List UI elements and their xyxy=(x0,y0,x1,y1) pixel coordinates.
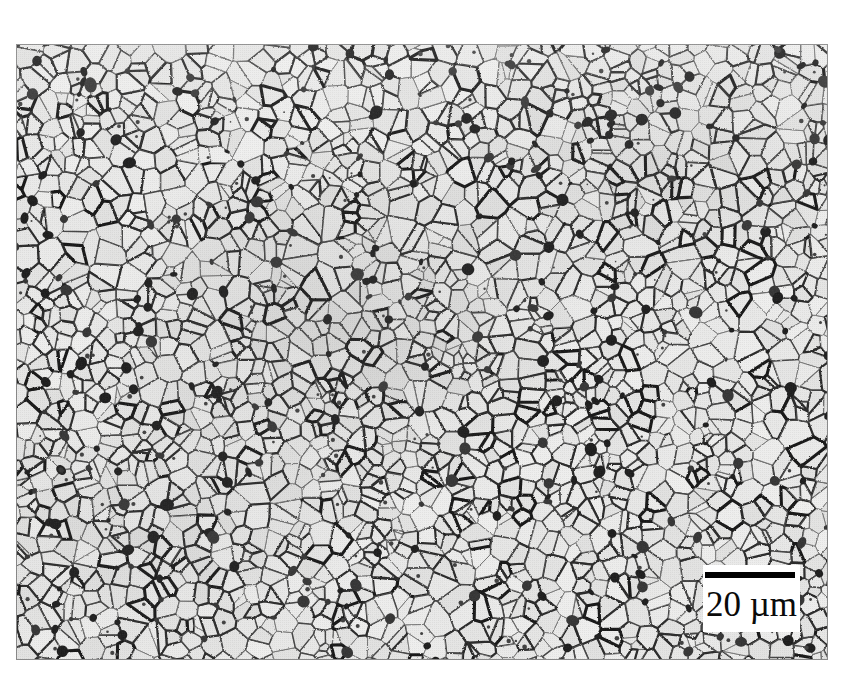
micrograph-plate: 20 µm xyxy=(16,44,828,660)
scale-bar-line xyxy=(705,572,795,578)
scale-bar: 20 µm xyxy=(703,565,800,632)
figure-root: 20 µm xyxy=(0,0,865,695)
scale-bar-label: 20 µm xyxy=(703,584,800,626)
